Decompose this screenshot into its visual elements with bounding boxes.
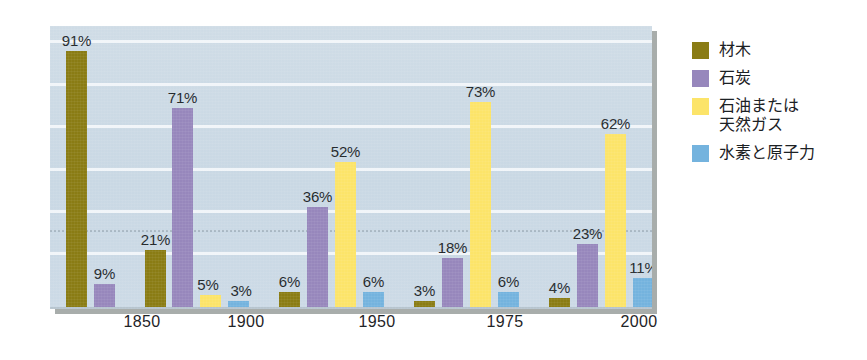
legend-item[interactable]: 材木 — [692, 40, 864, 59]
legend-label: 石炭 — [719, 68, 751, 87]
bar-value-label: 4% — [549, 279, 570, 296]
bar-value-label: 91% — [62, 32, 91, 49]
bar-value-label: 52% — [331, 143, 360, 160]
bar-fill — [633, 278, 652, 309]
plot-area: 91%9%21%71%5%3%6%36%52%6%3%18%73%6%4%23%… — [50, 26, 652, 309]
bar-value-label: 9% — [94, 265, 115, 282]
legend-item[interactable]: 石油または 天然ガス — [692, 96, 864, 134]
legend-item[interactable]: 水素と原子力 — [692, 143, 864, 162]
plot-wrapper: 91%9%21%71%5%3%6%36%52%6%3%18%73%6%4%23%… — [50, 26, 652, 309]
bar[interactable]: 52% — [335, 162, 356, 309]
bar-value-label: 62% — [601, 115, 630, 132]
x-tick-label-1900: 1900 — [228, 313, 265, 331]
bar[interactable]: 62% — [605, 134, 626, 309]
bar-value-label: 6% — [363, 273, 384, 290]
bar-value-label: 6% — [279, 273, 300, 290]
bar-fill — [442, 258, 463, 309]
bar-fill — [66, 51, 87, 309]
chart-legend: 材木石炭石油または 天然ガス水素と原子力 — [692, 40, 864, 171]
bar-value-label: 36% — [303, 188, 332, 205]
legend-swatch-icon — [692, 70, 709, 87]
gridline — [50, 83, 652, 86]
legend-label: 石油または 天然ガス — [719, 96, 799, 134]
bar-fill — [94, 284, 115, 309]
legend-swatch-icon — [692, 42, 709, 59]
x-tick-label-2000: 2000 — [621, 313, 658, 331]
bar-fill — [335, 162, 356, 309]
bar[interactable]: 91% — [66, 51, 87, 309]
bar-fill — [307, 207, 328, 309]
bar[interactable]: 73% — [470, 102, 491, 309]
bar-value-label: 3% — [230, 282, 251, 299]
bar-fill — [605, 134, 626, 309]
bar-value-label: 71% — [168, 89, 197, 106]
bar-value-label: 6% — [498, 273, 519, 290]
legend-item[interactable]: 石炭 — [692, 68, 864, 87]
bar[interactable]: 21% — [145, 250, 166, 309]
bar-value-label: 5% — [197, 276, 218, 293]
bar[interactable]: 23% — [577, 244, 598, 309]
bar-fill — [145, 250, 166, 309]
bar[interactable]: 71% — [172, 108, 193, 309]
bar[interactable]: 9% — [94, 284, 115, 309]
bar-value-label: 23% — [573, 225, 602, 242]
chart-root: 91%9%21%71%5%3%6%36%52%6%3%18%73%6%4%23%… — [0, 0, 867, 360]
bar-value-label: 73% — [466, 83, 495, 100]
legend-label: 材木 — [719, 40, 751, 59]
bar-value-label: 3% — [414, 282, 435, 299]
bar-value-label: 18% — [438, 239, 467, 256]
bar-value-label: 21% — [141, 231, 170, 248]
bar-fill — [470, 102, 491, 309]
bar-fill — [577, 244, 598, 309]
bar[interactable]: 18% — [442, 258, 463, 309]
bar[interactable]: 11% — [633, 278, 652, 309]
legend-label: 水素と原子力 — [719, 143, 815, 162]
legend-swatch-icon — [692, 145, 709, 162]
gridline — [50, 125, 652, 128]
x-tick-label-1850: 1850 — [124, 313, 161, 331]
x-tick-label-1950: 1950 — [359, 313, 396, 331]
bar-fill — [172, 108, 193, 309]
bar-value-label: 11% — [629, 259, 652, 276]
bar[interactable]: 36% — [307, 207, 328, 309]
legend-swatch-icon — [692, 98, 709, 115]
x-axis-baseline — [50, 307, 652, 309]
gridline — [50, 40, 652, 43]
x-tick-label-1975: 1975 — [487, 313, 524, 331]
